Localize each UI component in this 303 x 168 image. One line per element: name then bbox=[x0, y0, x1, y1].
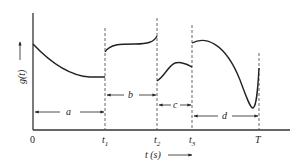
y-axis-label-group: g(t) bbox=[16, 69, 28, 84]
x-axis-label: t (s) bbox=[145, 149, 162, 161]
segment-d-label: d bbox=[222, 110, 228, 121]
segment-a-curve bbox=[33, 44, 105, 77]
segment-d-curve bbox=[192, 40, 259, 108]
segment-b-label: b bbox=[128, 89, 133, 100]
tick-t2-label: t2 bbox=[154, 134, 161, 148]
tick-t1-label: t1 bbox=[102, 134, 108, 148]
origin-label: 0 bbox=[30, 134, 35, 145]
tick-t3-label: t3 bbox=[189, 134, 196, 148]
segment-c-curve bbox=[157, 62, 192, 81]
segment-a-label: a bbox=[66, 106, 71, 117]
segment-b-curve bbox=[105, 36, 157, 52]
segment-c-label: c bbox=[173, 99, 178, 110]
signal-diagram: g(t) a b c d 0 t1 t2 t3 T t (s) bbox=[0, 0, 303, 168]
y-axis-label: g(t) bbox=[16, 69, 28, 84]
tick-T-label: T bbox=[255, 134, 262, 145]
